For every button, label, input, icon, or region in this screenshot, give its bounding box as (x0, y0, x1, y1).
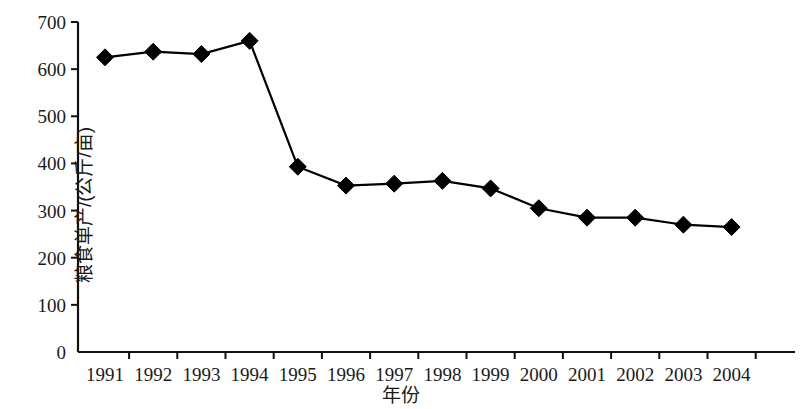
data-point-marker (579, 209, 596, 226)
y-axis-tick-label: 400 (0, 154, 66, 173)
y-axis-tick-label: 500 (0, 107, 66, 126)
data-point-marker (97, 49, 114, 66)
chart-axes (78, 22, 795, 352)
y-axis-tick-label: 100 (0, 295, 66, 314)
data-point-marker (482, 180, 499, 197)
data-point-marker (675, 216, 692, 233)
y-axis-tick-label: 0 (0, 343, 66, 362)
y-axis-tick-label: 600 (0, 60, 66, 79)
data-point-marker (627, 209, 644, 226)
chart-container: 0100200300400500600700 19911992199319941… (0, 0, 802, 409)
data-point-marker (723, 219, 740, 236)
y-axis-tick-label: 200 (0, 248, 66, 267)
data-point-marker (289, 158, 306, 175)
y-axis-tick-label: 700 (0, 13, 66, 32)
data-point-marker (434, 172, 451, 189)
data-point-marker (338, 177, 355, 194)
y-axis-tick-label: 300 (0, 201, 66, 220)
y-axis-title: 粮食单产/(公斤/亩) (69, 126, 96, 282)
data-point-marker (241, 32, 258, 49)
data-point-marker (530, 200, 547, 217)
x-axis-title: 年份 (0, 380, 802, 407)
data-point-markers (97, 32, 741, 235)
data-line-series (105, 41, 732, 227)
data-point-marker (386, 175, 403, 192)
data-point-marker (193, 46, 210, 63)
line-chart-plot (0, 0, 802, 409)
data-point-marker (145, 43, 162, 60)
